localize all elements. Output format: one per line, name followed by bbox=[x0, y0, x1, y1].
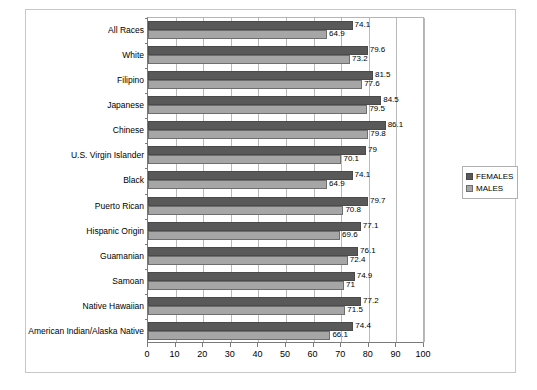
y-axis-tick bbox=[145, 93, 148, 94]
bar-group: White79.673.2 bbox=[148, 43, 423, 68]
bar-females bbox=[148, 297, 361, 306]
bar-value-label: 71.5 bbox=[347, 305, 363, 314]
bar-value-label: 77.2 bbox=[363, 296, 379, 305]
bar-males bbox=[148, 281, 344, 290]
bar-females bbox=[148, 146, 366, 155]
bar-value-label: 79.7 bbox=[370, 196, 386, 205]
y-axis-label: American Indian/Alaska Native bbox=[28, 326, 144, 336]
y-axis-label: Black bbox=[123, 175, 144, 185]
y-axis-label: Hispanic Origin bbox=[86, 226, 144, 236]
bar-males bbox=[148, 105, 367, 114]
y-axis-tick bbox=[145, 43, 148, 44]
x-axis-tick-50 bbox=[285, 343, 286, 347]
x-axis-tick-30 bbox=[230, 343, 231, 347]
bar-males bbox=[148, 256, 348, 265]
bar-females bbox=[148, 322, 353, 331]
bar-females bbox=[148, 222, 361, 231]
bar-females bbox=[148, 171, 353, 180]
bar-value-label: 72.4 bbox=[350, 255, 366, 264]
x-axis-tick-40 bbox=[257, 343, 258, 347]
x-axis-tick-80 bbox=[368, 343, 369, 347]
bar-value-label: 74.4 bbox=[355, 321, 371, 330]
bar-group: Samoan74.971 bbox=[148, 269, 423, 294]
bar-males bbox=[148, 55, 350, 64]
bar-males bbox=[148, 180, 327, 189]
x-axis-tick-100 bbox=[423, 343, 424, 347]
bar-females bbox=[148, 121, 386, 130]
bar-group: American Indian/Alaska Native74.466.1 bbox=[148, 319, 423, 344]
bar-males bbox=[148, 80, 362, 89]
x-axis-label-10: 10 bbox=[170, 349, 180, 359]
y-axis-label: U.S. Virgin Islander bbox=[71, 150, 144, 160]
bar-females bbox=[148, 247, 358, 256]
y-axis-label: Filipino bbox=[117, 75, 144, 85]
bar-group: Puerto Rican79.770.8 bbox=[148, 194, 423, 219]
bar-males bbox=[148, 206, 343, 215]
x-axis-label-20: 20 bbox=[197, 349, 207, 359]
x-axis-label-30: 30 bbox=[225, 349, 235, 359]
legend-swatch-females-icon bbox=[466, 173, 473, 180]
bar-value-label: 76.1 bbox=[360, 246, 376, 255]
bar-value-label: 79.6 bbox=[370, 45, 386, 54]
y-axis-label: Native Hawaiian bbox=[83, 301, 144, 311]
bar-value-label: 71 bbox=[346, 280, 355, 289]
bar-males bbox=[148, 306, 345, 315]
x-axis-tick-90 bbox=[395, 343, 396, 347]
x-axis-label-100: 100 bbox=[415, 349, 430, 359]
bar-value-label: 81.5 bbox=[375, 70, 391, 79]
bar-group: U.S. Virgin Islander7970.1 bbox=[148, 143, 423, 168]
bar-value-label: 79.8 bbox=[370, 129, 386, 138]
bar-females bbox=[148, 46, 368, 55]
bar-value-label: 73.2 bbox=[352, 54, 368, 63]
bar-males bbox=[148, 30, 327, 39]
bar-value-label: 70.8 bbox=[345, 205, 361, 214]
y-axis-tick bbox=[145, 143, 148, 144]
bar-value-label: 84.5 bbox=[383, 95, 399, 104]
bar-group: Guamanian76.172.4 bbox=[148, 244, 423, 269]
legend-label-males: MALES bbox=[476, 184, 503, 193]
x-axis-label-90: 90 bbox=[390, 349, 400, 359]
y-axis-tick bbox=[145, 319, 148, 320]
legend-item-males: MALES bbox=[466, 183, 513, 194]
bar-males bbox=[148, 331, 330, 340]
bar-group: Black74.164.9 bbox=[148, 168, 423, 193]
bar-males bbox=[148, 130, 368, 139]
y-axis-label: White bbox=[122, 50, 144, 60]
bar-value-label: 79.5 bbox=[369, 104, 385, 113]
bar-group: Hispanic Origin77.169.6 bbox=[148, 219, 423, 244]
bar-value-label: 64.9 bbox=[329, 179, 345, 188]
bar-group: All Races74.164.9 bbox=[148, 18, 423, 43]
bar-females bbox=[148, 272, 355, 281]
bar-value-label: 79 bbox=[368, 145, 377, 154]
bar-females bbox=[148, 96, 381, 105]
y-axis-tick bbox=[145, 168, 148, 169]
y-axis-tick bbox=[145, 294, 148, 295]
y-axis-label: All Races bbox=[108, 25, 144, 35]
y-axis-label: Puerto Rican bbox=[95, 201, 144, 211]
bar-value-label: 74.1 bbox=[355, 20, 371, 29]
x-axis-tick-20 bbox=[202, 343, 203, 347]
bar-value-label: 74.9 bbox=[357, 271, 373, 280]
y-axis-tick bbox=[145, 18, 148, 19]
y-axis-tick bbox=[145, 219, 148, 220]
bar-females bbox=[148, 71, 373, 80]
x-axis-label-0: 0 bbox=[144, 349, 149, 359]
y-axis-tick bbox=[145, 194, 148, 195]
bar-males bbox=[148, 155, 341, 164]
chart-legend: FEMALES MALES bbox=[462, 166, 518, 199]
y-axis-tick bbox=[145, 68, 148, 69]
x-axis: 0102030405060708090100 bbox=[147, 343, 425, 365]
legend-label-females: FEMALES bbox=[476, 172, 513, 181]
x-axis-tick-0 bbox=[147, 343, 148, 347]
bar-females bbox=[148, 197, 368, 206]
bar-group: Japanese84.579.5 bbox=[148, 93, 423, 118]
y-axis-label: Samoan bbox=[112, 276, 144, 286]
gridline-100 bbox=[424, 18, 425, 342]
y-axis-label: Guamanian bbox=[100, 251, 144, 261]
x-axis-tick-70 bbox=[340, 343, 341, 347]
legend-swatch-males-icon bbox=[466, 185, 473, 192]
x-axis-label-50: 50 bbox=[280, 349, 290, 359]
bar-value-label: 69.6 bbox=[342, 230, 358, 239]
y-axis-tick bbox=[145, 118, 148, 119]
bar-value-label: 66.1 bbox=[332, 330, 348, 339]
